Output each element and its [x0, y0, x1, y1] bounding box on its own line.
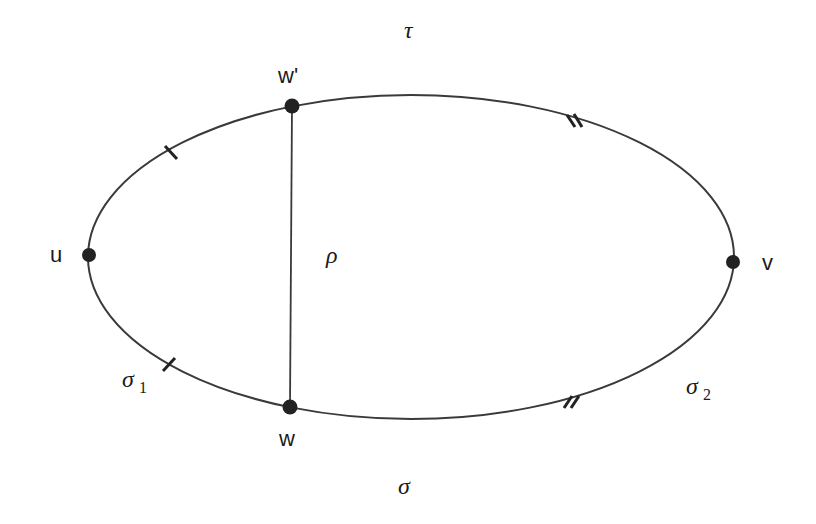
label-rho: ρ	[325, 242, 338, 268]
tick-mark-lower-left	[163, 358, 175, 371]
node-v	[726, 255, 740, 269]
node-w	[283, 400, 298, 415]
double-tick-mark-lower-right	[564, 396, 579, 408]
label-sigma: σ	[398, 473, 411, 499]
label-w: w	[278, 426, 295, 451]
label-v: v	[762, 250, 773, 275]
chord-rho	[290, 106, 292, 407]
node-w-prime	[285, 99, 300, 114]
svg-text:σ: σ	[686, 373, 699, 399]
svg-text:σ: σ	[122, 366, 135, 392]
label-u: u	[50, 242, 62, 267]
svg-text:2: 2	[703, 386, 711, 403]
double-tick-mark-upper-right	[567, 114, 582, 127]
label-sigma1: σ 1	[122, 366, 147, 396]
svg-text:1: 1	[139, 379, 147, 396]
cycle-diagram: u v w' w τ ρ σ σ 1 σ 2	[0, 0, 816, 524]
label-w-prime: w'	[277, 63, 298, 88]
label-sigma2: σ 2	[686, 373, 711, 403]
cycle-ellipse	[88, 95, 734, 419]
node-u	[82, 248, 96, 262]
label-tau: τ	[404, 17, 414, 43]
